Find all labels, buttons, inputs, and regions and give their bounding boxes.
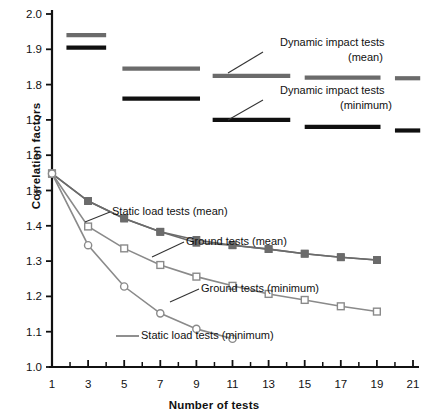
y-tick-label: 1.2: [26, 290, 42, 302]
series-annotation-label: (minimum): [340, 99, 392, 111]
series-annotation-label: Ground tests (minimum): [201, 282, 319, 294]
series-annotation-label: Dynamic impact tests: [280, 84, 385, 96]
data-point-marker: [193, 273, 200, 280]
x-tick-label: 3: [85, 378, 91, 390]
x-tick-label: 15: [298, 378, 311, 390]
y-tick-label: 1.9: [26, 43, 42, 55]
y-axis-title: Correlation factors: [30, 86, 42, 226]
x-tick-label: 19: [371, 378, 384, 390]
data-point-marker: [301, 250, 308, 257]
series-annotation-label: Ground tests (mean): [186, 235, 287, 247]
leader-line: [170, 289, 199, 302]
x-axis-title: Number of tests: [0, 399, 428, 411]
chart-canvas: 1.01.11.21.31.41.51.61.71.81.92.01357911…: [0, 0, 428, 420]
y-tick-label: 1.1: [26, 326, 42, 338]
leader-line: [228, 100, 263, 120]
data-point-marker: [374, 308, 381, 315]
data-point-marker: [121, 283, 128, 290]
data-series: [48, 170, 380, 342]
data-point-marker: [301, 297, 308, 304]
x-tick-label: 11: [227, 378, 239, 390]
data-point-marker: [337, 303, 344, 310]
step-bars: [66, 35, 420, 130]
annotation-labels: Dynamic impact tests(mean)Dynamic impact…: [112, 36, 392, 341]
series-annotation-label: Static load tests (minimum): [141, 329, 274, 341]
leader-line: [228, 52, 263, 73]
series-annotation-label: Static load tests (mean): [112, 205, 228, 217]
x-tick-label: 13: [262, 378, 275, 390]
leader-line: [85, 212, 110, 222]
x-tick-label: 9: [193, 378, 199, 390]
data-point-marker: [157, 228, 164, 235]
y-tick-label: 1.0: [26, 361, 42, 373]
x-tick-label: 17: [334, 378, 347, 390]
y-tick-label: 1.3: [26, 255, 42, 267]
x-tick-label: 21: [407, 378, 420, 390]
data-point-marker: [157, 262, 164, 269]
leader-line: [152, 242, 184, 257]
x-tick-label: 5: [121, 378, 127, 390]
y-tick-label: 2.0: [26, 8, 42, 20]
data-point-marker: [157, 310, 164, 317]
x-tick-label: 1: [49, 378, 55, 390]
data-point-marker: [85, 198, 92, 205]
series-annotation-label: Dynamic impact tests: [280, 36, 385, 48]
series-annotation-label: (mean): [348, 51, 383, 63]
data-point-marker: [121, 245, 128, 252]
correlation-factors-chart: 1.01.11.21.31.41.51.61.71.81.92.01357911…: [0, 0, 428, 420]
data-point-marker: [85, 223, 92, 230]
data-point-marker: [48, 170, 55, 177]
data-point-marker: [337, 254, 344, 261]
x-tick-label: 7: [157, 378, 163, 390]
data-point-marker: [85, 242, 92, 249]
data-point-marker: [374, 257, 381, 264]
